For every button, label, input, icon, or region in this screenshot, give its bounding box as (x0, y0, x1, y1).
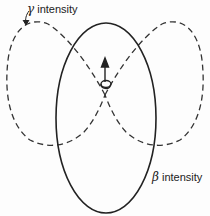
radiation-pattern-diagram: γ intensity β intensity (0, 0, 210, 216)
gamma-label-text: intensity (37, 3, 77, 15)
beta-label-text: intensity (162, 171, 202, 183)
gamma-right-lobe (105, 22, 203, 146)
coil-with-spin-arrow (101, 58, 111, 88)
beta-symbol: β (152, 170, 159, 184)
beta-intensity-label: β intensity (152, 171, 202, 183)
gamma-intensity-label: γ intensity (27, 3, 78, 15)
gamma-intensity-curve (7, 22, 203, 146)
gamma-symbol: γ (27, 2, 34, 16)
beta-intensity-curve (56, 23, 156, 213)
spin-arrow-head-icon (102, 58, 109, 67)
